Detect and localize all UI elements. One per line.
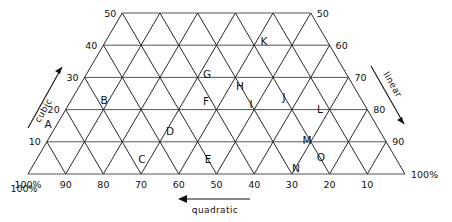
left-tick-label: 40 — [85, 40, 97, 51]
point-label-e: E — [205, 153, 212, 165]
bottom-tick-label: 10 — [361, 179, 373, 190]
bottom-tick-label: 40 — [248, 179, 260, 190]
point-label-n: N — [292, 162, 300, 174]
point-label-f: F — [203, 95, 209, 107]
quadratic-arrow-head — [178, 195, 187, 203]
grid-line-left-diagonal — [66, 13, 160, 174]
bottom-tick-label: 80 — [97, 179, 109, 190]
bottom-tick-label: 60 — [173, 179, 185, 190]
cubic-arrow-head — [55, 67, 62, 74]
bottom-tick-label: 20 — [324, 179, 336, 190]
axis-quadratic-label: quadratic — [192, 205, 238, 215]
tick-labels: 5040302010100%5060708090100%100%90807060… — [10, 8, 438, 194]
grid-line-right-diagonal — [160, 13, 254, 174]
right-tick-label: 90 — [392, 136, 404, 147]
ternary-diagram: 5040302010100%5060708090100%100%90807060… — [0, 0, 452, 222]
grid-line-left-diagonal — [103, 13, 197, 174]
linear-arrow-head — [397, 117, 404, 124]
point-label-l: L — [317, 103, 323, 115]
grid-line-right-diagonal — [311, 13, 405, 174]
grid-line-left-diagonal — [28, 13, 122, 174]
point-label-a: A — [44, 118, 52, 130]
grid-line-left-diagonal — [367, 142, 386, 174]
point-label-g: G — [203, 68, 211, 80]
point-label-k: K — [261, 35, 269, 47]
point-label-o: O — [317, 151, 325, 163]
right-tick-label: 60 — [336, 40, 348, 51]
left-tick-label: 30 — [66, 72, 78, 83]
point-label-i: I — [249, 98, 252, 110]
grid-line-right-diagonal — [198, 13, 292, 174]
bottom-tick-label: 90 — [60, 179, 72, 190]
grid-line-right-diagonal — [85, 77, 142, 174]
bottom-tick-label: 100% — [14, 179, 41, 190]
triangular-grid — [28, 13, 405, 174]
grid-line-left-diagonal — [179, 13, 273, 174]
left-tick-label: 10 — [29, 136, 41, 147]
grid-line-right-diagonal — [273, 13, 367, 174]
bottom-tick-label: 30 — [286, 179, 298, 190]
point-label-j: J — [281, 91, 285, 103]
axis-linear-label: linear — [381, 70, 404, 99]
right-tick-label: 100% — [411, 169, 438, 180]
grid-line-left-diagonal — [141, 13, 235, 174]
grid-line-right-diagonal — [122, 13, 216, 174]
bottom-tick-label: 50 — [210, 179, 222, 190]
bottom-tick-label: 70 — [135, 179, 147, 190]
point-label-d: D — [166, 125, 174, 137]
left-tick-label: 50 — [104, 8, 116, 19]
right-tick-label: 80 — [373, 104, 385, 115]
right-tick-label: 70 — [354, 72, 366, 83]
point-label-c: C — [138, 153, 145, 165]
point-label-m: M — [302, 134, 311, 146]
point-label-b: B — [100, 94, 107, 106]
axis-linear: linear — [371, 66, 404, 124]
point-label-h: H — [236, 80, 244, 92]
grid-line-right-diagonal — [47, 142, 66, 174]
axis-quadratic: quadratic — [178, 195, 250, 215]
right-tick-label: 50 — [317, 8, 329, 19]
